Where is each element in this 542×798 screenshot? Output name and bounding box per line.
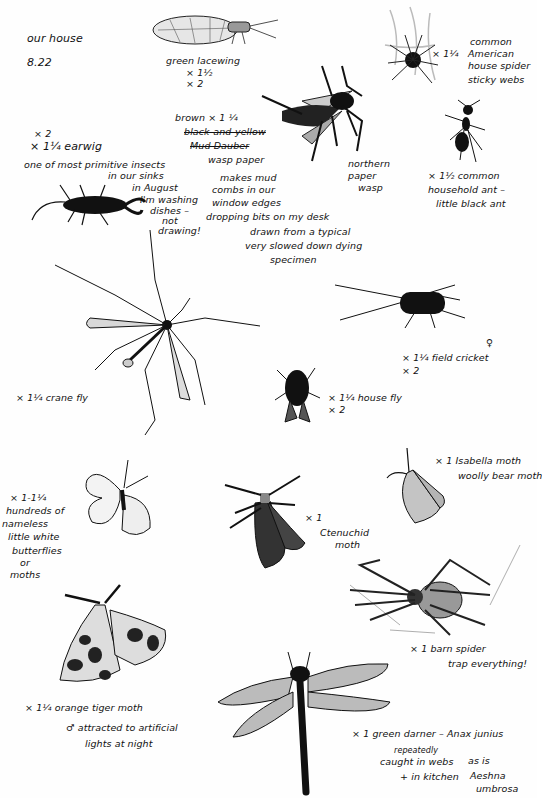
- ant-drawing: [440, 100, 490, 165]
- house-spider-scale: × 1¼: [432, 48, 459, 60]
- tiger-moth-note-1: ♂ attracted to artificial: [66, 722, 178, 734]
- crane-fly-drawing: [55, 230, 255, 440]
- earwig-label: × 1¼ earwig: [30, 140, 102, 154]
- cricket-scale-2: × 2: [402, 365, 419, 377]
- wasp-label-2: paper: [348, 170, 376, 182]
- lacewing-label: green lacewing: [166, 55, 240, 67]
- darner-note-3: + in kitchen: [400, 771, 459, 783]
- wasp-note-3: Mud Dauber: [190, 140, 249, 152]
- barn-spider-drawing: [340, 545, 540, 645]
- darner-note-4: as is: [468, 755, 490, 767]
- house-fly-drawing: [275, 360, 325, 425]
- ant-label-3: little black ant: [436, 198, 506, 210]
- house-fly-label: × 1¼ house fly: [328, 392, 402, 404]
- tiger-moth-label: × 1¼ orange tiger moth: [25, 702, 143, 714]
- wasp-note-10: very slowed down dying: [245, 240, 362, 252]
- wasp-label-3: wasp: [358, 182, 383, 194]
- house-spider-label-2: American: [468, 48, 514, 60]
- butterflies-scale: × 1-1¼: [10, 492, 46, 504]
- wasp-note-8: dropping bits on my desk: [206, 211, 329, 223]
- wasp-note-7: window edges: [212, 197, 281, 209]
- green-lacewing-drawing: [150, 10, 280, 50]
- wasp-note-1: brown × 1 ¼: [175, 112, 238, 124]
- butterflies-note-2: nameless: [2, 518, 48, 530]
- ant-label-1: × 1½ common: [428, 170, 500, 182]
- ctenuchid-scale: × 1: [305, 512, 322, 524]
- isabella-label-1: × 1 Isabella moth: [435, 455, 521, 467]
- paper-wasp-drawing: [262, 66, 372, 166]
- wasp-note-4: wasp paper: [208, 154, 264, 166]
- page-title: our house: [27, 32, 83, 46]
- ant-label-2: household ant –: [428, 184, 505, 196]
- isabella-label-2: woolly bear moth: [458, 470, 542, 482]
- wasp-label-1: northern: [348, 158, 390, 170]
- house-fly-scale-2: × 2: [328, 404, 345, 416]
- ctenuchid-label-1: Ctenuchid: [320, 527, 369, 539]
- butterflies-note-1: hundreds of: [6, 505, 64, 517]
- cricket-label: × 1¼ field cricket: [402, 352, 489, 364]
- crane-fly-label: × 1¼ crane fly: [16, 392, 88, 404]
- house-spider-label-1: common: [470, 36, 512, 48]
- wasp-note-11: specimen: [270, 254, 317, 266]
- wasp-note-9: drawn from a typical: [250, 226, 350, 238]
- green-darner-drawing: [208, 652, 393, 797]
- darner-note-6: umbrosa: [476, 783, 519, 795]
- darner-note-5: Aeshna: [470, 770, 506, 782]
- butterflies-note-6: moths: [10, 569, 40, 581]
- wasp-note-5: makes mud: [220, 172, 277, 184]
- darner-label: × 1 green darner – Anax junius: [352, 728, 503, 740]
- butterflies-note-5: or: [20, 557, 30, 569]
- barn-spider-label: × 1 barn spider: [410, 643, 486, 655]
- ctenuchid-moth-drawing: [225, 473, 310, 573]
- butterflies-note-3: little white: [8, 531, 59, 543]
- orange-tiger-moth-drawing: [55, 585, 170, 685]
- house-spider-label-4: sticky webs: [468, 74, 524, 86]
- wasp-note-6: combs in our: [212, 184, 275, 196]
- tiger-moth-note-2: lights at night: [85, 738, 153, 750]
- darner-note-2: caught in webs: [380, 756, 454, 768]
- page-date: 8.22: [27, 56, 52, 70]
- butterflies-note-4: butterflies: [12, 545, 62, 557]
- wasp-note-2: black-and-yellow: [184, 126, 266, 138]
- barn-spider-note: trap everything!: [448, 658, 527, 670]
- cricket-sex: ♀: [486, 337, 493, 349]
- earwig-scale-1: × 2: [34, 128, 51, 140]
- white-butterfly-drawing: [82, 460, 157, 540]
- house-spider-label-3: house spider: [468, 60, 530, 72]
- house-spider-drawing: [380, 5, 440, 85]
- lacewing-scale-2: × 2: [186, 78, 203, 90]
- field-cricket-drawing: [335, 280, 475, 340]
